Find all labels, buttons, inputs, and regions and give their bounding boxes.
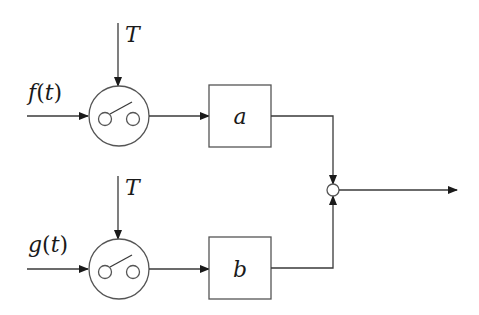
block-b: b [209, 237, 271, 299]
summing-junction-icon [327, 184, 339, 196]
input-label-f: f(t) [26, 80, 62, 105]
input-g-branch: g(t) [27, 232, 88, 269]
diagram-svg: f(t) T a g(t) [0, 0, 479, 315]
sampler-switch-icon [89, 239, 149, 299]
input-label-g: g(t) [28, 232, 68, 257]
block-diagram: f(t) T a g(t) [0, 0, 479, 315]
a-to-junction-arrow [271, 116, 333, 184]
sampler-switch-icon [89, 86, 149, 146]
block-a: a [209, 85, 271, 147]
sampler-bottom: T [89, 175, 149, 299]
b-to-junction-arrow [271, 196, 333, 268]
sampler-top: T [89, 22, 149, 146]
period-label-bottom: T [125, 175, 142, 200]
input-f-branch: f(t) [26, 80, 88, 116]
block-b-label: b [233, 257, 247, 282]
period-label-top: T [125, 22, 142, 47]
block-a-label: a [233, 104, 246, 129]
